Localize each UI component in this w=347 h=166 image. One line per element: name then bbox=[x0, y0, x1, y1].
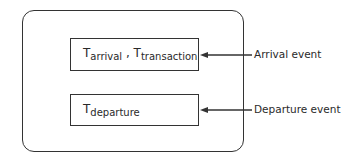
departure-event-label: Departure event bbox=[254, 103, 341, 115]
arrival-event-label: Arrival event bbox=[254, 48, 321, 60]
event-arrows bbox=[0, 0, 347, 166]
